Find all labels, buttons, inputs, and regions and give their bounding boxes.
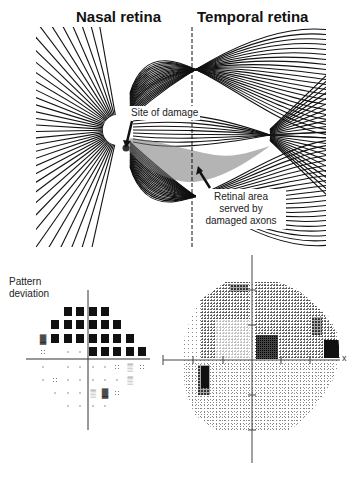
grayscale-visual-field-plot [0, 0, 362, 477]
gf-axis-end-label: x [342, 353, 347, 363]
